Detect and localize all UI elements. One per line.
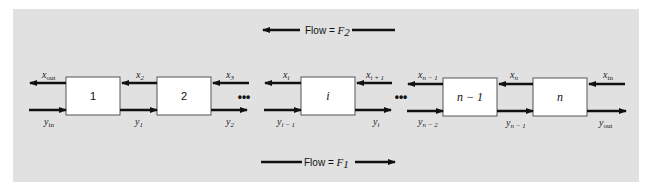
- svg-text:yn − 2: yn − 2: [417, 116, 438, 129]
- svg-text:n − 1: n − 1: [457, 90, 483, 104]
- ellipsis-1: •••: [238, 90, 251, 104]
- svg-text:xi + 1: xi + 1: [365, 69, 384, 82]
- flow-bottom-label: Flow =: [304, 157, 337, 168]
- stage-2: 2: [157, 77, 211, 115]
- svg-text:1: 1: [90, 90, 96, 102]
- svg-text:yout: yout: [598, 117, 612, 130]
- svg-text:x2: x2: [135, 69, 144, 82]
- stage-1: 1: [66, 77, 120, 115]
- countercurrent-diagram: Flow = F2 Flow = F1 1 2 i n − 1 n ••• ••…: [0, 0, 657, 192]
- svg-text:i: i: [326, 89, 329, 103]
- svg-text:yin: yin: [43, 116, 54, 129]
- flow-bottom-indicator: Flow = F1: [261, 156, 395, 170]
- stage-n-minus-1: n − 1: [443, 78, 497, 116]
- flow-top-label: Flow =: [305, 25, 338, 36]
- stage-i: i: [301, 77, 355, 115]
- svg-text:Flow = F2: Flow = F2: [305, 24, 350, 38]
- svg-text:xn: xn: [509, 69, 518, 82]
- svg-text:yi: yi: [372, 116, 379, 129]
- svg-text:xout: xout: [41, 69, 55, 82]
- svg-text:y1: y1: [134, 116, 143, 129]
- svg-text:xin: xin: [602, 69, 613, 82]
- svg-text:x3: x3: [225, 69, 234, 82]
- svg-text:xi: xi: [282, 69, 289, 82]
- svg-text:xn − 1: xn − 1: [417, 69, 438, 82]
- svg-text:y2: y2: [225, 116, 234, 129]
- svg-text:2: 2: [181, 90, 187, 102]
- svg-text:Flow = F1: Flow = F1: [304, 156, 349, 170]
- y-labels: yin y1 y2 yi − 1 yi yn − 2 yn − 1 yout: [43, 116, 612, 130]
- svg-text:yn − 1: yn − 1: [505, 117, 526, 130]
- ellipsis-2: •••: [395, 90, 408, 104]
- svg-text:n: n: [557, 90, 563, 104]
- stage-n: n: [533, 78, 587, 116]
- flow-top-indicator: Flow = F2: [263, 24, 395, 38]
- svg-text:yi − 1: yi − 1: [276, 116, 295, 129]
